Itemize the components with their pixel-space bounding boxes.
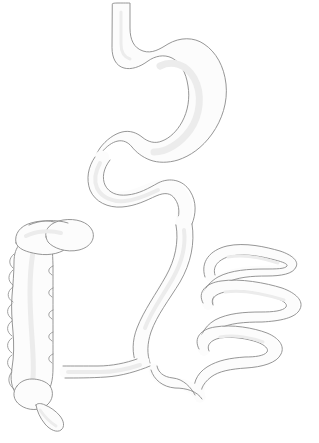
digestive-tract-illustration: [0, 0, 319, 443]
anatomy-figure: [0, 0, 319, 443]
duodenum-group: [88, 157, 195, 225]
ascending-colon-group: [8, 239, 54, 401]
transverse-colon-lobe: [46, 219, 94, 250]
stomach-and-esophagus-outline: [94, 3, 226, 172]
small-intestine-coil-2-fill: [203, 286, 294, 350]
stomach-group: [94, 3, 226, 172]
jejunum-descending-group: [133, 222, 193, 364]
cecum-outline: [14, 379, 53, 410]
figure-caption: [0, 431, 319, 443]
ileocecal-junction-group: [63, 359, 150, 378]
appendix-outline: [36, 404, 64, 432]
cecum-appendix-group: [14, 379, 64, 431]
hepatic-flexure-group: [16, 219, 94, 254]
